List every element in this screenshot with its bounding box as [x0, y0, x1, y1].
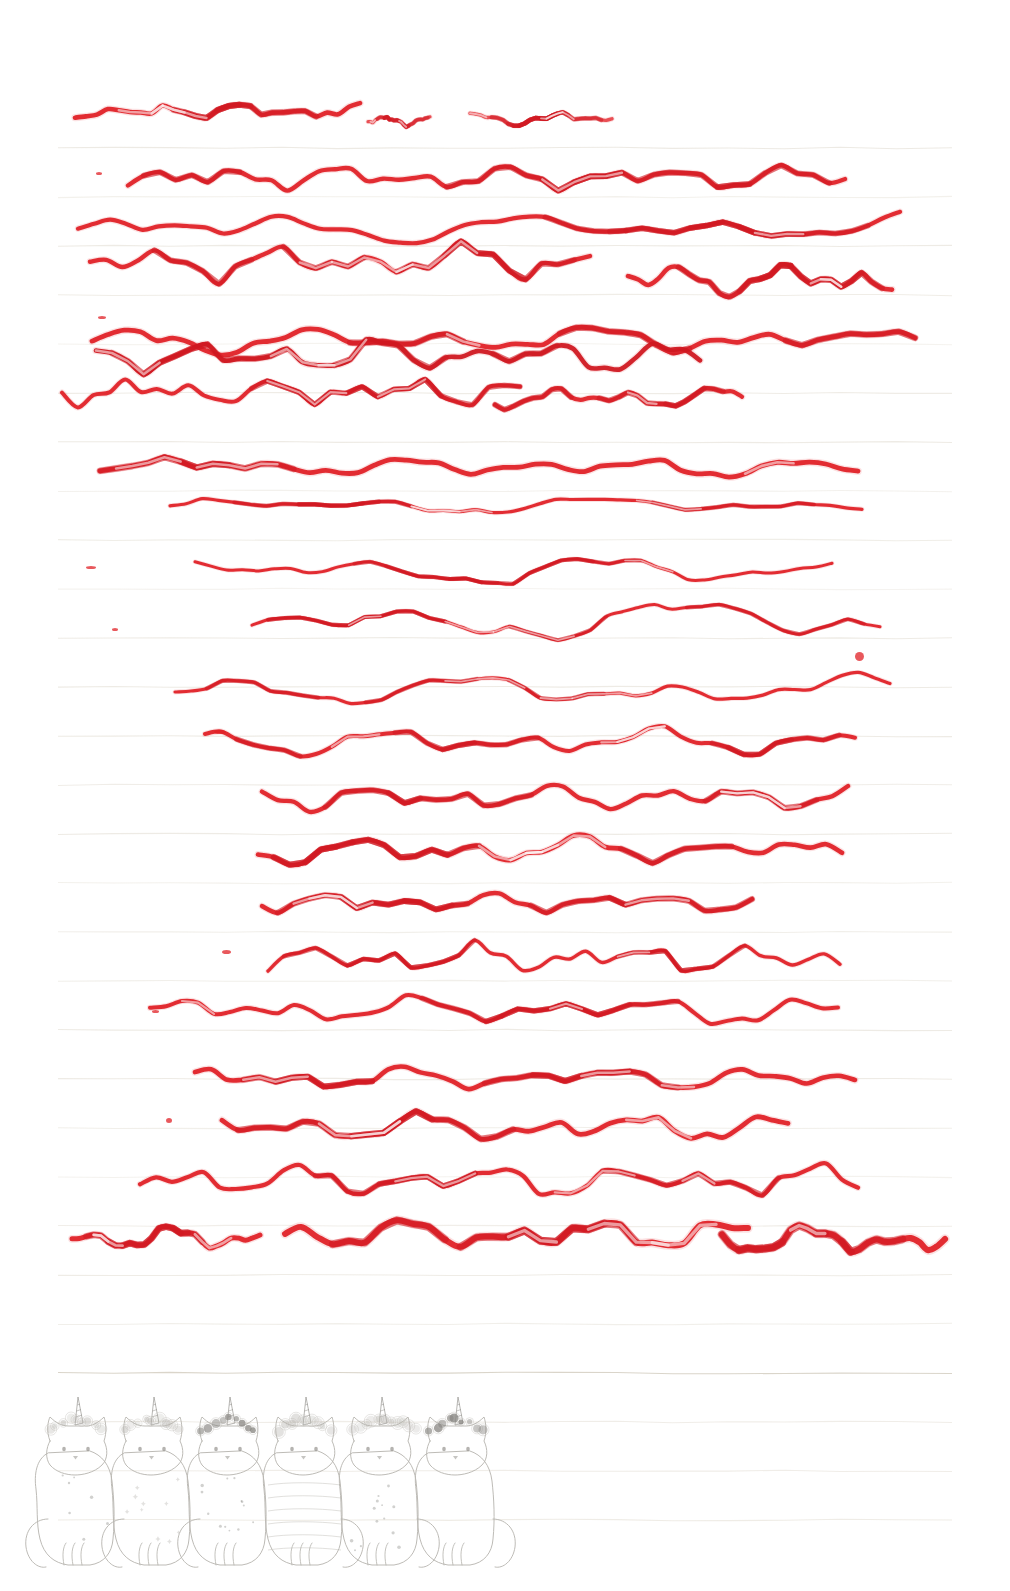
marker-stroke-pressure [495, 389, 571, 410]
marker-stroke-pressure [274, 846, 337, 864]
marker-stroke-pressure [816, 1234, 850, 1252]
marker-stroke-pressure [284, 948, 459, 968]
marker-stroke-pressure [404, 118, 428, 127]
marker-stroke-pressure [722, 1235, 782, 1251]
marker-stroke-pressure [397, 241, 526, 279]
marker-stroke-pressure [445, 241, 574, 279]
marker-stroke-pressure [687, 605, 864, 635]
marker-stroke-pressure [531, 898, 626, 913]
marker-stroke-gap [309, 895, 372, 908]
marker-stroke-pressure [353, 840, 479, 858]
marker-stroke [175, 672, 890, 703]
ink-speck [855, 652, 864, 661]
ink-speck [152, 1010, 159, 1013]
marker-stroke-pressure [712, 735, 839, 754]
ink-speck [214, 730, 226, 734]
marker-stroke-pressure [354, 562, 497, 583]
marker-stroke-pressure [649, 946, 744, 971]
marker-stroke [252, 605, 880, 641]
marker-stroke [195, 559, 832, 584]
marker-stroke-pressure [333, 1220, 445, 1244]
marker-stroke-gap [511, 845, 558, 860]
marker-stroke-pressure [422, 998, 502, 1021]
marker-stroke-pressure [679, 265, 791, 297]
ink-speck [98, 316, 106, 319]
ink-speck [112, 628, 118, 631]
ink-speck [222, 950, 231, 954]
marker-stroke-pressure [278, 895, 452, 913]
marker-stroke-pressure [268, 611, 445, 625]
marker-stroke-pressure [155, 250, 252, 284]
marker-stroke-bleed [195, 559, 832, 584]
marker-stroke [268, 940, 840, 971]
marker-stroke-pressure [346, 379, 441, 396]
marker-stroke-pressure [218, 105, 317, 117]
marker-stroke-gap [116, 457, 181, 468]
marker-stroke-pressure [237, 739, 300, 756]
marker-stroke-pressure [502, 1001, 678, 1016]
marker-stroke-pressure [347, 940, 474, 967]
ink-speck [86, 566, 96, 569]
marker-stroke-pressure [610, 222, 755, 233]
notebook-page [0, 0, 1010, 1591]
ink-speck [96, 172, 102, 175]
marker-stroke-pressure [351, 1111, 432, 1136]
marker-stroke-pressure [207, 681, 318, 698]
marker-stroke-pressure [395, 732, 474, 750]
marker-stroke-pressure [509, 680, 604, 700]
marker-stroke-pressure [447, 167, 622, 191]
marker-stroke-pressure [510, 617, 607, 641]
marker-stroke-pressure [786, 332, 915, 346]
marker-stroke-bleed [252, 605, 880, 641]
marker-stroke-pressure [621, 847, 732, 864]
ink-speck [166, 1118, 172, 1123]
red-marker-practice-strokes [0, 0, 1010, 1591]
marker-stroke-pressure [144, 171, 240, 182]
marker-stroke-pressure [108, 1227, 188, 1246]
